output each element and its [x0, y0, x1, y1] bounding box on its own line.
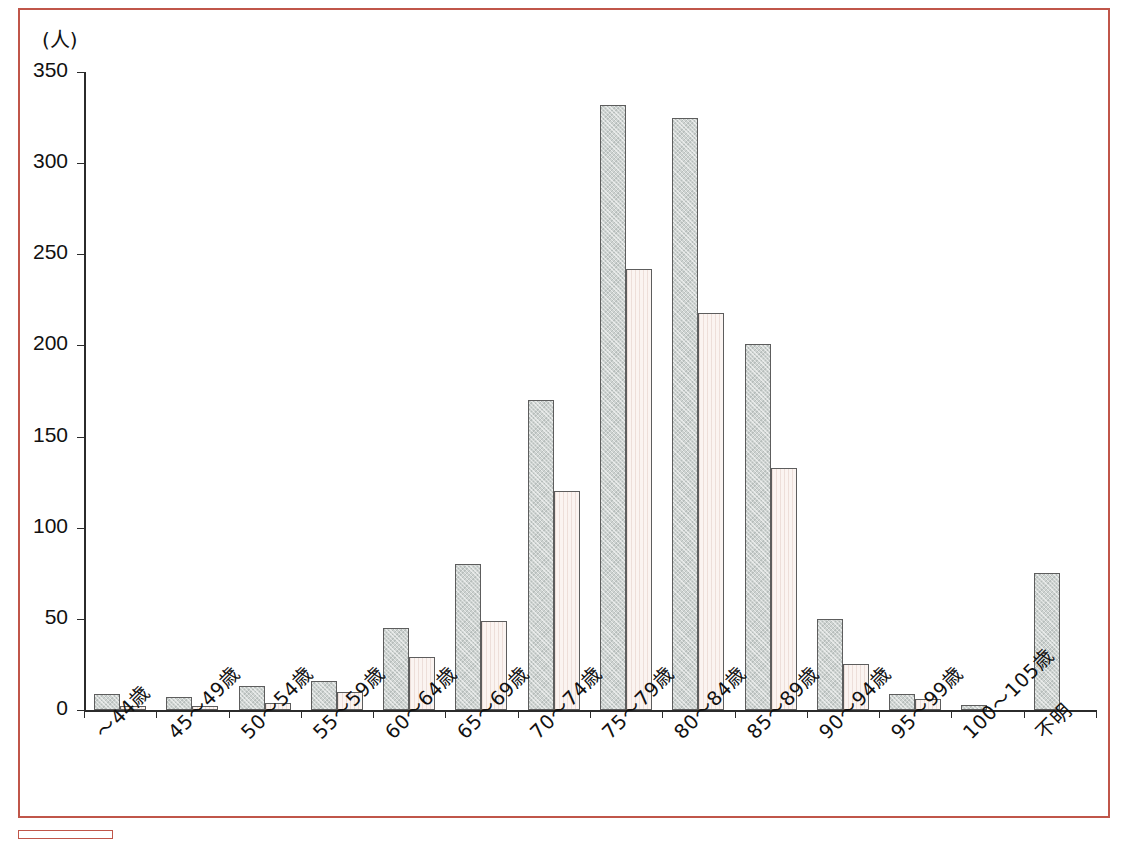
bar-group — [951, 72, 1023, 710]
bar-group — [590, 72, 662, 710]
x-tick — [1096, 710, 1097, 718]
x-tick — [229, 710, 230, 718]
bar-group — [229, 72, 301, 710]
x-tick — [84, 710, 85, 718]
y-tick — [77, 345, 84, 346]
y-tick-label: 200 — [16, 331, 68, 355]
bar-series-2 — [626, 269, 652, 710]
y-tick — [77, 528, 84, 529]
y-tick-label: 350 — [16, 58, 68, 82]
x-tick — [445, 710, 446, 718]
y-tick — [77, 72, 84, 73]
caption-marker — [18, 830, 113, 839]
bar-series-1 — [528, 400, 554, 710]
bar-group — [301, 72, 373, 710]
bar-series-1 — [455, 564, 481, 710]
bar-series-2 — [698, 313, 724, 710]
chart-page: (人) 050100150200250300350 ～44歳45～49歳50～5… — [0, 0, 1128, 845]
chart-frame: (人) 050100150200250300350 ～44歳45～49歳50～5… — [18, 8, 1110, 818]
x-tick — [373, 710, 374, 718]
bar-group — [662, 72, 734, 710]
y-tick-label: 150 — [16, 423, 68, 447]
bar-series-1 — [600, 105, 626, 710]
x-tick — [1024, 710, 1025, 718]
plot-area: 050100150200250300350 ～44歳45～49歳50～54歳55… — [84, 72, 1096, 710]
y-tick — [77, 254, 84, 255]
x-tick — [951, 710, 952, 718]
x-tick — [879, 710, 880, 718]
x-tick — [301, 710, 302, 718]
y-tick-label: 250 — [16, 240, 68, 264]
bar-group — [84, 72, 156, 710]
y-tick — [77, 437, 84, 438]
caption-text — [124, 828, 684, 838]
bar-series-1 — [745, 344, 771, 710]
bar-group — [373, 72, 445, 710]
bar-group — [156, 72, 228, 710]
y-axis-unit-label: (人) — [42, 24, 78, 53]
x-tick — [590, 710, 591, 718]
y-tick — [77, 619, 84, 620]
bar-group — [807, 72, 879, 710]
bar-group — [879, 72, 951, 710]
bar-group — [518, 72, 590, 710]
x-tick — [156, 710, 157, 718]
x-tick — [518, 710, 519, 718]
x-tick — [807, 710, 808, 718]
y-tick — [77, 710, 84, 711]
bar-group — [735, 72, 807, 710]
x-tick — [735, 710, 736, 718]
bar-group — [445, 72, 517, 710]
bar-group — [1024, 72, 1096, 710]
bar-series-1 — [672, 118, 698, 710]
y-tick-label: 50 — [16, 605, 68, 629]
x-tick — [662, 710, 663, 718]
y-tick-label: 100 — [16, 514, 68, 538]
y-tick — [77, 163, 84, 164]
y-tick-label: 0 — [16, 696, 68, 720]
y-tick-label: 300 — [16, 149, 68, 173]
